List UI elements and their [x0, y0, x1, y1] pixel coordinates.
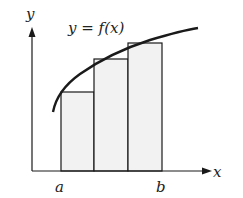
rectangle-2	[94, 59, 128, 171]
y-axis-label: y	[25, 5, 35, 23]
x-axis-arrow-icon	[202, 168, 212, 175]
x-axis-label: x	[213, 163, 222, 181]
interval-start-label: a	[55, 178, 64, 196]
rectangle-3	[128, 43, 162, 171]
curve-label: y = f(x)	[67, 19, 124, 37]
y-axis-arrow-icon	[29, 27, 36, 37]
rectangles	[61, 43, 162, 171]
riemann-sum-diagram: y y = f(x) x a b	[0, 0, 243, 198]
interval-end-label: b	[156, 178, 166, 196]
rectangle-1	[61, 92, 94, 171]
